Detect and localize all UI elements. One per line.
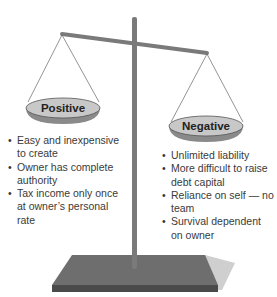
base-side [52,285,218,292]
negative-list: Unlimited liability More difficult to ra… [162,149,274,242]
positive-list: Easy and inexpensive to create Owner has… [8,134,126,227]
left-pan-positive: Positive [26,98,100,124]
positive-item: Easy and inexpensive to create [8,134,126,161]
right-pan-negative: Negative [169,116,243,142]
positive-item: Tax income only once at owner’s personal… [8,187,126,227]
negative-item: Survival dependent on owner [162,215,274,242]
scale-post [132,17,137,269]
right-pan-label: Negative [182,120,230,132]
negative-item: Unlimited liability [162,149,274,162]
left-pan-label: Positive [41,102,85,114]
negative-item: Reliance on self — no team [162,189,274,216]
negative-item: More difficult to raise debt capital [162,162,274,189]
positive-item: Owner has complete authority [8,161,126,188]
